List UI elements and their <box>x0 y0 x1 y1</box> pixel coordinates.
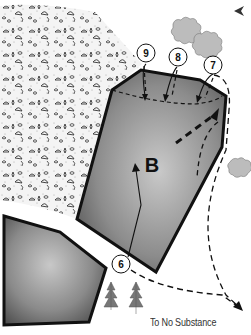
marker-6[interactable]: 6 <box>112 255 130 273</box>
area-b-label: B <box>145 154 159 176</box>
caption-to-no-substance: To No Substance <box>150 316 233 328</box>
compass-arrowhead-icon <box>234 6 244 16</box>
svg-text:9: 9 <box>143 48 149 59</box>
tree-icon <box>104 282 143 314</box>
svg-text:7: 7 <box>210 60 216 71</box>
marker-7[interactable]: 7 <box>204 56 222 74</box>
tactical-map-diagram: 9 8 7 6 B <box>0 0 251 335</box>
left-block <box>4 216 106 325</box>
svg-text:6: 6 <box>118 259 124 270</box>
marker-8[interactable]: 8 <box>169 48 187 66</box>
svg-text:8: 8 <box>175 52 181 63</box>
dashed-route-bottom <box>131 270 240 308</box>
marker-9[interactable]: 9 <box>137 44 155 62</box>
